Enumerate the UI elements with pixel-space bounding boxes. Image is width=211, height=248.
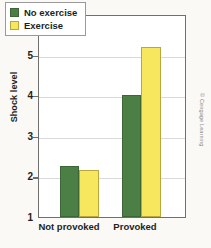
- y-tick-label-5: 5: [3, 51, 33, 61]
- plot-area: [38, 15, 186, 218]
- y-tick-label-4: 4: [3, 91, 33, 101]
- legend-swatch-no-exercise: [10, 8, 19, 17]
- bar-not-provoked-exercise: [79, 170, 99, 218]
- gridline-4: [39, 97, 185, 98]
- legend-swatch-exercise: [10, 21, 19, 30]
- y-tick-label-2: 2: [3, 172, 33, 182]
- bar-chart-figure: Shock level 6 5 4 3 2 1 Not provoked Pro…: [0, 0, 211, 248]
- x-tick-label-not-provoked: Not provoked: [38, 221, 100, 232]
- legend-label-exercise: Exercise: [24, 20, 63, 31]
- bar-not-provoked-no-exercise: [60, 166, 79, 217]
- x-tick-label-provoked: Provoked: [108, 221, 162, 232]
- gridline-5: [39, 57, 185, 58]
- legend-item-exercise: Exercise: [10, 19, 81, 32]
- y-tick-label-1: 1: [3, 213, 33, 223]
- y-tick-label-3: 3: [3, 132, 33, 142]
- gridline-3: [39, 138, 185, 139]
- legend-item-no-exercise: No exercise: [10, 6, 81, 19]
- copyright-credit: © Cengage Learning: [199, 93, 205, 213]
- legend-label-no-exercise: No exercise: [24, 7, 77, 18]
- bar-provoked-no-exercise: [122, 95, 141, 217]
- legend: No exercise Exercise: [5, 2, 86, 36]
- bar-provoked-exercise: [141, 47, 161, 218]
